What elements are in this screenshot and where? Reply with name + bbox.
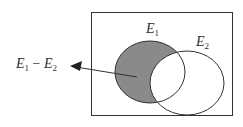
arrow-head-icon [70,61,82,71]
venn-diagram: E1 E2 E1 − E2 [0,0,243,127]
e1-minus-e2-label: E1 − E2 [15,56,57,73]
